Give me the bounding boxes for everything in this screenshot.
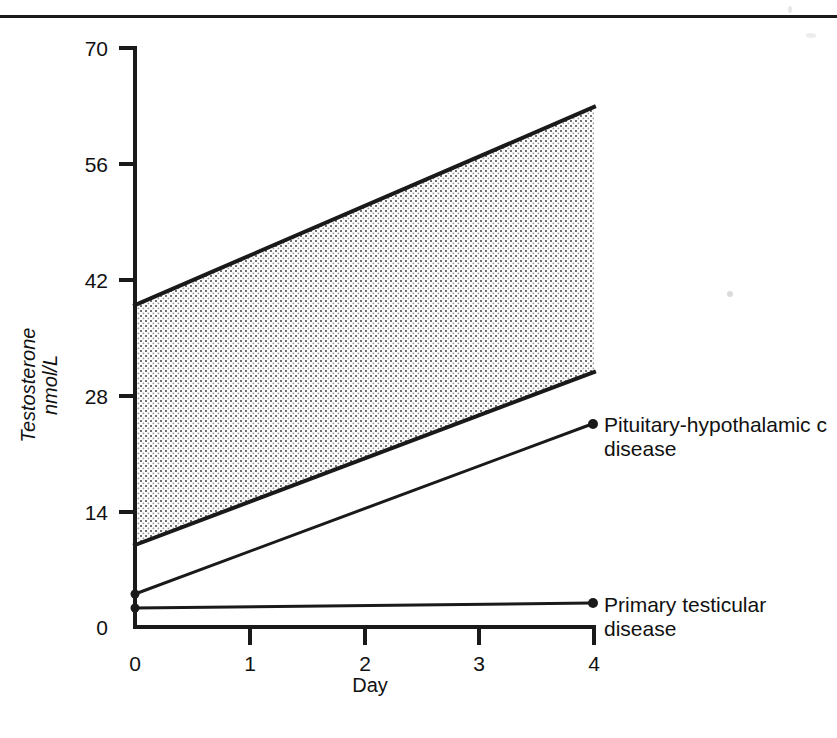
x-tick-label-4: 4	[588, 653, 600, 674]
x-tick-label-3: 3	[473, 653, 485, 674]
y-tick-label-14: 14	[70, 502, 108, 523]
y-tick-label-70: 70	[70, 38, 108, 59]
series-start-marker	[131, 604, 140, 613]
x-tick-label-0: 0	[129, 653, 141, 674]
callout-pituitary-hypothalamic-disease: Pituitary-hypothalamic c disease	[604, 413, 827, 461]
y-tick-label-42: 42	[70, 270, 108, 291]
callout-primary-line1: Primary testicular	[604, 593, 766, 616]
y-axis-title: Testosterone nmol/L	[18, 290, 61, 480]
y-tick-label-56: 56	[70, 154, 108, 175]
series-end-marker	[588, 598, 598, 608]
callout-pituitary-line2: disease	[604, 437, 827, 461]
y-axis-title-line1: Testosterone	[17, 328, 39, 443]
y-tick-label-0: 0	[70, 617, 108, 638]
y-axis-ticks	[119, 48, 135, 512]
x-axis-title: Day	[352, 674, 388, 697]
callout-pituitary-line1: Pituitary-hypothalamic c	[604, 413, 827, 436]
x-tick-label-2: 2	[359, 653, 371, 674]
y-tick-label-28: 28	[70, 386, 108, 407]
callout-primary-line2: disease	[604, 617, 766, 641]
figure-root: 70 56 42 28 14 0 0 1 2 3 4 Day Testoster…	[0, 0, 837, 738]
normal-range-band	[135, 107, 594, 545]
series-end-marker	[588, 419, 598, 429]
y-axis-title-line2: nmol/L	[40, 290, 62, 480]
x-tick-label-1: 1	[244, 653, 256, 674]
x-axis-ticks	[250, 627, 594, 645]
callout-primary-testicular-disease: Primary testicular disease	[604, 593, 766, 641]
series-start-marker	[131, 590, 140, 599]
series-primary-testicular-disease	[131, 598, 599, 613]
